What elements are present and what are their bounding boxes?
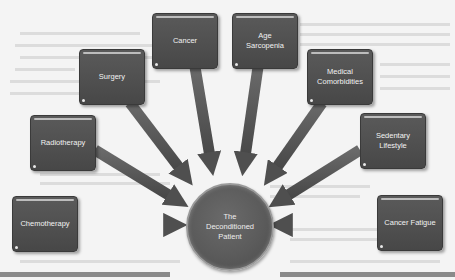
factor-label-line2: Comorbidities (314, 77, 366, 87)
factor-label: Chemotherapy (17, 219, 72, 229)
factor-medical-comorbidities: Medical Comorbidities (307, 49, 373, 105)
factor-label-line1: Age (255, 31, 274, 41)
factor-label-line2: Lifestyle (376, 141, 410, 151)
factor-label: Cancer (170, 36, 200, 46)
factor-label-line1: Sedentary (373, 131, 413, 141)
factor-chemotherapy: Chemotherapy (12, 196, 78, 252)
arrow-sedentary-lifestyle (285, 150, 360, 197)
center-deconditioned-patient: The Deconditioned Patient (186, 183, 274, 271)
factor-label-line2: Sarcopenia (243, 41, 287, 51)
factor-age-sarcopenia: Age Sarcopenia (232, 13, 298, 69)
arrow-radiotherapy (95, 150, 172, 197)
factor-label: Surgery (96, 72, 128, 82)
factor-label-line1: Medical (324, 67, 356, 77)
center-label-line1: The (206, 212, 254, 222)
arrow-cancer (195, 67, 210, 157)
factor-surgery: Surgery (79, 49, 145, 105)
arrow-medical-comorbidities (275, 103, 322, 170)
factor-cancer-fatigue: Cancer Fatigue (377, 195, 443, 251)
factor-cancer: Cancer (152, 13, 218, 69)
factor-radiotherapy: Radiotherapy (30, 115, 96, 171)
arrow-age-sarcopenia (245, 67, 258, 157)
center-label-line2: Deconditioned (206, 222, 254, 232)
factor-label: Cancer Fatigue (381, 218, 438, 228)
center-label-line3: Patient (206, 232, 254, 242)
arrow-surgery (130, 103, 181, 170)
factor-label: Radiotherapy (38, 138, 89, 148)
factor-sedentary-lifestyle: Sedentary Lifestyle (360, 113, 426, 169)
